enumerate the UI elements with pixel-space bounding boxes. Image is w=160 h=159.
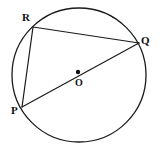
vertex-label-r: R: [22, 12, 30, 23]
center-label-o: O: [75, 77, 83, 88]
chord-RQ: [33, 27, 139, 43]
circle-outline: [12, 8, 146, 142]
vertex-label-q: Q: [141, 35, 150, 46]
center-point-dot: [76, 70, 80, 74]
geometry-figure: R Q P O: [0, 0, 160, 159]
vertex-label-p: P: [11, 105, 18, 116]
chord-RP: [22, 27, 33, 107]
diameter-PQ: [22, 43, 139, 107]
